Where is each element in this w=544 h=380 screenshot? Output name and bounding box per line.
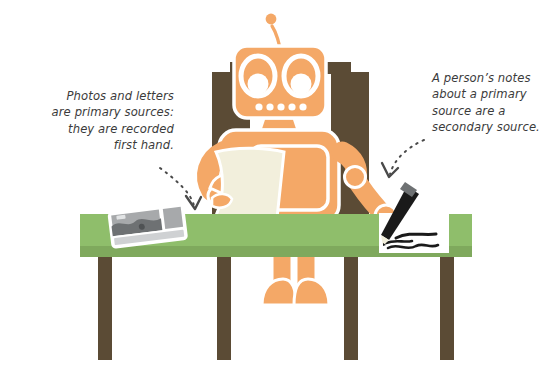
fingers-left: [212, 194, 232, 208]
antenna-bulb: [266, 14, 277, 25]
arrow-left: [160, 168, 201, 209]
table-leg-3: [344, 257, 358, 360]
elbow-joint-right: [345, 167, 366, 188]
foot-right: [294, 279, 329, 305]
table-leg-1: [98, 257, 112, 360]
annotation-right-text: A person’s notes about a primary source …: [432, 70, 542, 136]
camera: [110, 206, 185, 247]
illustration-canvas: Photos and letters are primary sources: …: [0, 0, 544, 380]
arrowhead-right: [382, 163, 398, 177]
arrow-right: [382, 140, 424, 177]
foot-left: [262, 279, 296, 305]
annotation-left-text: Photos and letters are primary sources: …: [28, 88, 174, 154]
table-leg-4: [440, 257, 454, 360]
table-leg-2: [217, 257, 231, 360]
scene-svg: [0, 0, 544, 380]
neck: [260, 118, 298, 130]
